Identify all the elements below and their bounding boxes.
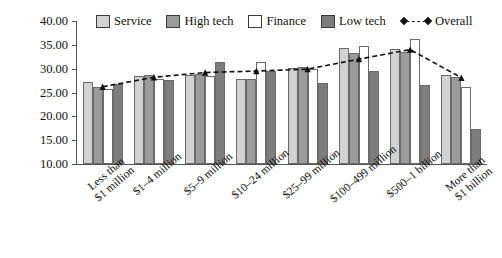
bar-group (180, 21, 231, 164)
bar-service (441, 75, 451, 164)
x-axis-labels: Less than$1 million$1–4 million$5–9 mill… (76, 165, 487, 257)
y-axis-tick-label: 20.00 (4, 109, 77, 124)
y-axis-tick-label: 30.00 (4, 61, 77, 76)
bar-high-tech (246, 79, 256, 164)
x-axis-label-cell: $1–4 million (127, 165, 178, 257)
bar-low-tech (369, 71, 379, 164)
bar-group (385, 21, 436, 164)
bar-finance (308, 69, 318, 164)
bar-groups (77, 21, 487, 164)
bar-high-tech (93, 87, 103, 164)
y-axis-tick-label: 10.00 (4, 157, 77, 172)
bar-finance (410, 39, 420, 164)
bar-group (77, 21, 128, 164)
bar-finance (256, 62, 266, 164)
bar-high-tech (451, 77, 461, 164)
bar-low-tech (113, 84, 123, 164)
x-axis-label-cell: $10–24 million (230, 165, 281, 257)
bar-finance (359, 46, 369, 164)
bar-service (339, 48, 349, 164)
x-axis-label-cell: $100–499 million (333, 165, 384, 257)
x-axis-label-cell: Less than$1 million (76, 165, 127, 257)
y-axis-tick-label: 40.00 (4, 14, 77, 29)
bar-low-tech (215, 62, 225, 164)
bar-service (134, 76, 144, 164)
x-axis-label-cell: $25–99 million (282, 165, 333, 257)
bar-group (128, 21, 179, 164)
bar-finance (103, 89, 113, 164)
bar-service (236, 79, 246, 164)
plot-area: 40.0035.0030.0025.0020.0015.0010.00 (76, 21, 487, 165)
bar-group (231, 21, 282, 164)
bar-low-tech (266, 71, 276, 164)
bar-group (282, 21, 333, 164)
x-axis-label-cell: $5–9 million (179, 165, 230, 257)
bar-service (185, 75, 195, 164)
bar-high-tech (195, 74, 205, 164)
bar-high-tech (144, 75, 154, 164)
bar-high-tech (298, 67, 308, 164)
x-axis-label-cell: More than$1 billion (436, 165, 487, 257)
bar-service (288, 68, 298, 164)
bar-chart: Service High tech Finance Low tech Overa… (0, 0, 502, 258)
bar-finance (154, 79, 164, 164)
bar-finance (205, 76, 215, 164)
y-axis-tick-label: 35.00 (4, 37, 77, 52)
bar-group (436, 21, 487, 164)
bar-high-tech (349, 53, 359, 164)
bar-finance (461, 87, 471, 164)
bar-service (83, 82, 93, 164)
bar-high-tech (400, 52, 410, 164)
x-axis-label-cell: $500–1 billion (384, 165, 435, 257)
y-axis-tick-label: 15.00 (4, 133, 77, 148)
bar-group (333, 21, 384, 164)
y-axis-tick-label: 25.00 (4, 85, 77, 100)
